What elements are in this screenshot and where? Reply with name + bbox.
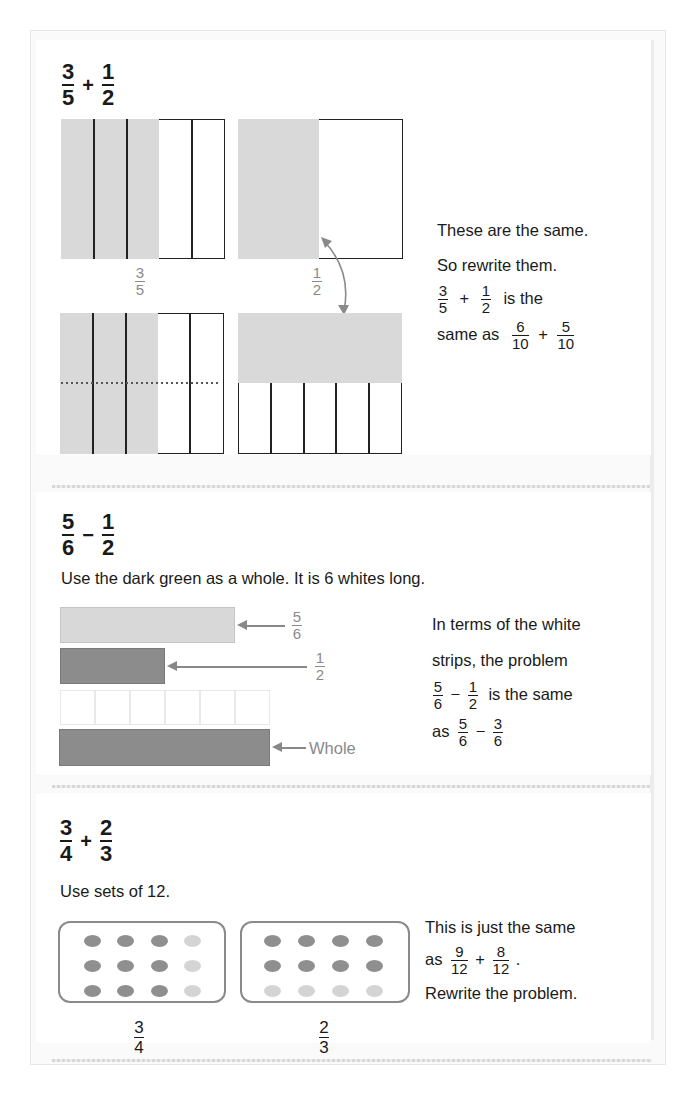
fraction: 1 2 xyxy=(102,62,114,108)
fraction: 1 2 xyxy=(102,512,114,558)
fraction: 5 6 xyxy=(62,512,74,558)
explanation-line: So rewrite them. xyxy=(437,254,557,276)
section-divider xyxy=(52,785,652,788)
operator: + xyxy=(80,830,92,853)
problem1-heading: 3 5 + 1 2 xyxy=(62,62,114,108)
fraction: 3 4 xyxy=(60,818,72,864)
problem2-heading: 5 6 − 1 2 xyxy=(62,512,114,558)
label-one-half: 12 xyxy=(315,651,325,682)
explanation-line: strips, the problem xyxy=(432,649,568,671)
explanation-line: Rewrite the problem. xyxy=(425,982,577,1004)
instruction: Use the dark green as a whole. It is 6 w… xyxy=(61,567,425,589)
numerator: 5 xyxy=(62,512,74,532)
rod-five-sixths xyxy=(60,607,235,643)
explanation-equation: as 56 − 36 xyxy=(432,717,505,748)
label-three-fourths: 34 xyxy=(134,1019,144,1056)
problem3-heading: 3 4 + 2 3 xyxy=(60,818,112,864)
section-divider xyxy=(52,485,652,488)
denominator: 2 xyxy=(102,88,114,108)
operator: + xyxy=(82,74,94,97)
numerator: 1 xyxy=(102,512,114,532)
explanation-line: This is just the same xyxy=(425,916,575,938)
label-three-fifths: 35 xyxy=(135,266,145,297)
denominator: 6 xyxy=(62,538,74,558)
rod-one-half xyxy=(60,648,165,684)
denominator: 5 xyxy=(62,88,74,108)
label-five-sixths: 56 xyxy=(292,610,302,641)
label-whole: Whole xyxy=(309,737,356,759)
fraction: 3 5 xyxy=(62,62,74,108)
explanation-equation: 35 + 12 is the xyxy=(436,284,543,315)
numerator: 3 xyxy=(60,818,72,838)
numerator: 3 xyxy=(62,62,74,82)
fraction: 2 3 xyxy=(100,818,112,864)
denominator: 2 xyxy=(102,538,114,558)
denominator: 3 xyxy=(100,844,112,864)
operator: − xyxy=(82,524,94,547)
numerator: 1 xyxy=(102,62,114,82)
explanation-line: These are the same. xyxy=(437,219,588,241)
dot-set-two-thirds xyxy=(240,921,410,1003)
explanation-equation: 56 − 12 is the same xyxy=(431,680,573,711)
denominator: 4 xyxy=(60,844,72,864)
numerator: 2 xyxy=(100,818,112,838)
instruction: Use sets of 12. xyxy=(60,880,170,902)
explanation-equation: as 912 + 812 . xyxy=(425,945,520,976)
explanation-line: In terms of the white xyxy=(432,613,581,635)
dot-set-three-fourths xyxy=(58,921,226,1003)
label-two-thirds: 23 xyxy=(319,1019,329,1056)
double-arrow-icon xyxy=(318,235,358,317)
rod-whole xyxy=(59,729,270,766)
explanation-equation: same as 610 + 510 xyxy=(437,320,576,351)
section-divider xyxy=(52,1059,652,1062)
